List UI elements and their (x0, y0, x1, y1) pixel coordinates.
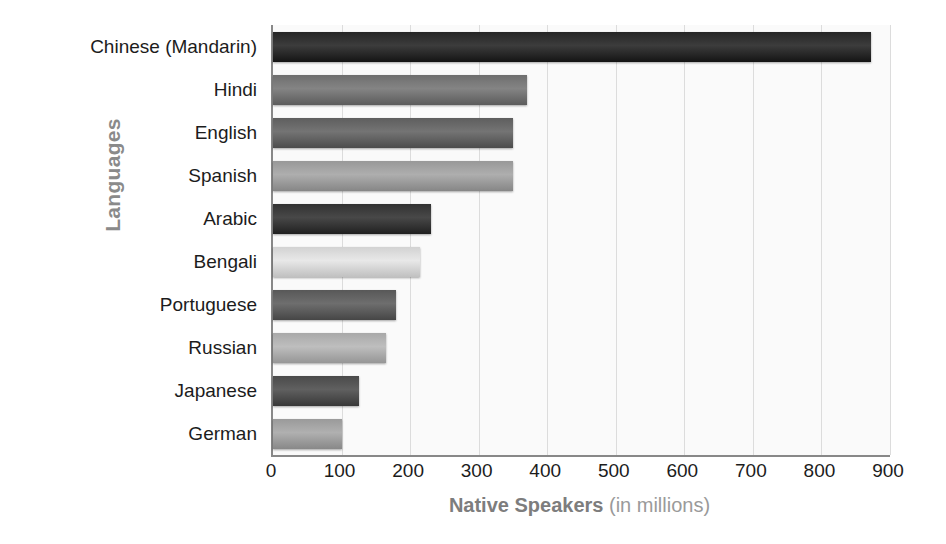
x-tick-label: 400 (529, 460, 561, 482)
category-label: German (60, 412, 265, 455)
bar (273, 419, 342, 449)
bar-chart: Languages Chinese (Mandarin) Hindi Engli… (0, 0, 946, 544)
x-tick-label: 100 (324, 460, 356, 482)
x-tick-label: 900 (872, 460, 904, 482)
category-label: Portuguese (60, 283, 265, 326)
x-tick-label: 600 (666, 460, 698, 482)
x-tick-label: 800 (804, 460, 836, 482)
y-axis-category-labels: Chinese (Mandarin) Hindi English Spanish… (60, 25, 265, 455)
bar-row (273, 154, 890, 197)
bar (273, 118, 513, 148)
bar-row (273, 240, 890, 283)
bar-row (273, 111, 890, 154)
x-tick-label: 0 (266, 460, 277, 482)
bar-row (273, 283, 890, 326)
bar (273, 75, 527, 105)
x-axis-title-light: (in millions) (603, 494, 710, 516)
category-label: Chinese (Mandarin) (60, 25, 265, 68)
bar-row (273, 412, 890, 455)
category-label: Bengali (60, 240, 265, 283)
bar (273, 290, 396, 320)
bar (273, 247, 420, 277)
category-label: Arabic (60, 197, 265, 240)
x-tick-label: 300 (461, 460, 493, 482)
category-label: Japanese (60, 369, 265, 412)
bar (273, 32, 871, 62)
x-tick-label: 700 (735, 460, 767, 482)
x-axis-title: Native Speakers (in millions) (271, 494, 888, 517)
bar-row (273, 197, 890, 240)
bar-row (273, 68, 890, 111)
category-label: Hindi (60, 68, 265, 111)
bar-row (273, 369, 890, 412)
bar-row (273, 326, 890, 369)
x-tick-label: 200 (392, 460, 424, 482)
category-label: English (60, 111, 265, 154)
x-tick-label: 500 (598, 460, 630, 482)
bar (273, 376, 359, 406)
bar (273, 161, 513, 191)
category-label: Russian (60, 326, 265, 369)
x-axis-title-bold: Native Speakers (449, 494, 604, 516)
category-label: Spanish (60, 154, 265, 197)
bar (273, 333, 386, 363)
bar (273, 204, 431, 234)
plot-area (271, 25, 890, 457)
bar-row (273, 25, 890, 68)
bars-layer (273, 25, 890, 455)
gridline (890, 25, 891, 455)
x-axis-tick-labels: 0100200300400500600700800900 (271, 460, 888, 488)
